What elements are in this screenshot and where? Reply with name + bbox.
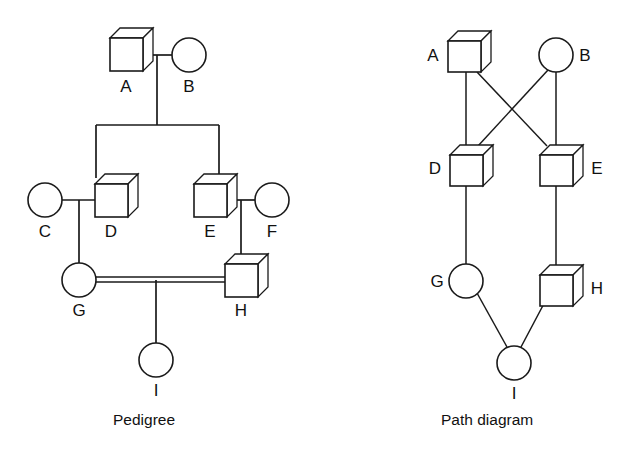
pedigree-node-f[interactable]: F [255,183,289,241]
path-node-e-front-face [540,155,573,186]
path-edge-g-i [477,293,507,347]
pedigree-node-g[interactable]: G [62,263,96,320]
node-e-label: E [204,222,215,241]
genetics-figure-svg: A B C D [0,0,617,459]
figure-root: A B C D [0,0,617,459]
path-node-b-label: B [579,46,590,65]
pedigree-node-b[interactable]: B [172,38,206,96]
pedigree-node-h[interactable]: H [225,254,268,320]
path-node-b[interactable]: B [539,38,591,72]
pedigree-node-i[interactable]: I [139,343,173,400]
path-node-i-circle [497,346,531,380]
node-g-label: G [72,301,85,320]
pedigree-node-c[interactable]: C [28,183,62,241]
node-d-front-face [95,184,128,217]
node-e-front-face [194,184,227,217]
path-node-e-label: E [591,159,602,178]
node-h-front-face [225,264,258,297]
path-node-d-label: D [429,159,441,178]
path-diagram-caption: Path diagram [441,411,533,429]
path-node-d[interactable]: D [429,145,493,186]
node-h-label: H [235,301,247,320]
pedigree-node-d[interactable]: D [95,174,138,241]
node-c-circle [28,183,62,217]
path-node-a-label: A [427,46,439,65]
path-node-a[interactable]: A [427,31,491,72]
path-node-g-circle [449,264,483,298]
pedigree-node-e[interactable]: E [194,174,237,241]
path-node-h-front-face [540,275,573,306]
node-c-label: C [39,222,51,241]
node-d-label: D [105,222,117,241]
node-i-circle [139,343,173,377]
path-node-h[interactable]: H [540,265,603,306]
path-node-i[interactable]: I [497,346,531,403]
pedigree-panel: A B C D [28,28,289,400]
pedigree-caption: Pedigree [113,411,175,429]
path-node-g[interactable]: G [430,264,483,298]
path-node-a-front-face [448,41,481,72]
node-f-circle [255,183,289,217]
path-node-g-label: G [430,272,443,291]
path-node-h-label: H [591,279,603,298]
node-b-label: B [183,77,194,96]
node-a-label: A [120,77,132,96]
node-i-label: I [154,381,159,400]
pedigree-node-a[interactable]: A [110,28,153,96]
path-node-b-circle [539,38,573,72]
node-b-circle [172,38,206,72]
node-a-front-face [110,38,143,71]
path-diagram-panel: A B D E [427,31,603,403]
path-node-i-label: I [512,384,517,403]
node-f-label: F [267,222,277,241]
path-edge-b-d [478,70,548,146]
path-node-d-front-face [450,155,483,186]
path-node-e[interactable]: E [540,145,603,186]
node-g-circle [62,263,96,297]
